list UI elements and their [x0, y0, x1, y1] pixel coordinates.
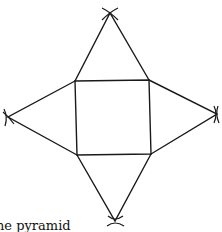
figure-caption: he pyramid — [0, 218, 71, 232]
pyramid-net-figure: he pyramid — [0, 0, 222, 232]
bottom-triangle-face — [77, 154, 151, 221]
right-triangle-face — [149, 80, 217, 154]
pyramid-net-drawing — [0, 0, 222, 232]
left-apex-arc-mark — [3, 109, 14, 126]
square-base — [75, 80, 151, 155]
top-triangle-face — [75, 13, 149, 81]
left-triangle-face — [8, 81, 77, 155]
right-apex-arc-mark — [214, 106, 219, 123]
